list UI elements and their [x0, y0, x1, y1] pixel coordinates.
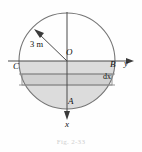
label-x-axis: x [65, 120, 69, 129]
figure-drawing [0, 0, 142, 152]
label-origin: O [66, 48, 73, 57]
label-point-b: B [110, 60, 116, 69]
label-point-a: A [68, 97, 74, 106]
label-point-c: C [13, 62, 19, 71]
figure-caption: Fig. 2-33 [0, 138, 142, 146]
figure-container: O C B A y x 3 m dx Fig. 2-33 [0, 0, 142, 152]
label-dx: dx [103, 73, 111, 81]
label-y-axis: y [124, 59, 128, 68]
label-radius: 3 m [30, 40, 43, 49]
